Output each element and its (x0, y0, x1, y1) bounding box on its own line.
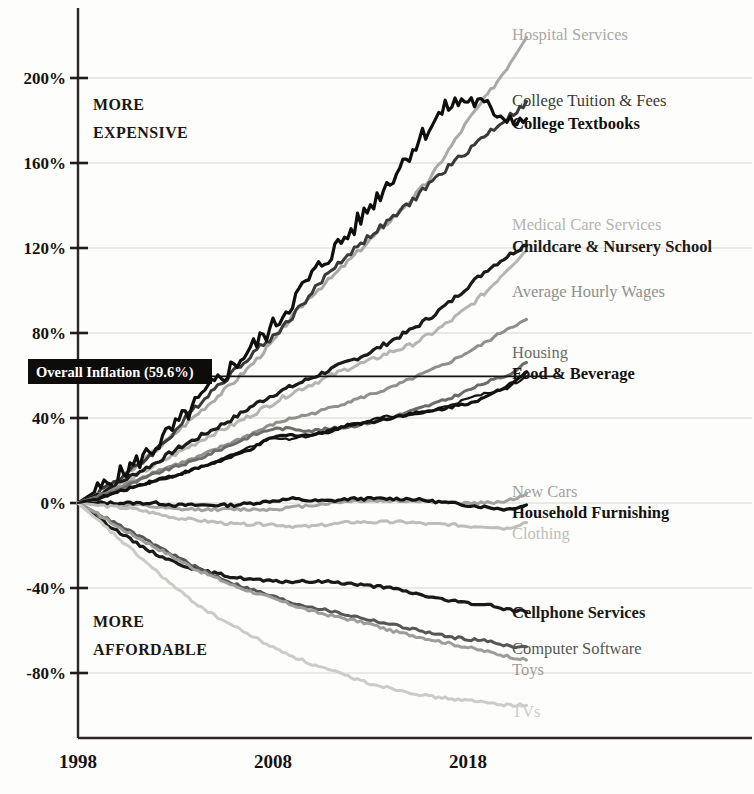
series-label: Cellphone Services (512, 603, 646, 622)
chart-canvas: 200%160%120%80%40%0%-40%-80% 19982008201… (0, 0, 754, 794)
overall-inflation-badge-text: Overall Inflation (59.6%) (36, 364, 194, 381)
series-label: Average Hourly Wages (512, 282, 665, 301)
series-label: College Textbooks (512, 114, 640, 133)
series-label: College Tuition & Fees (512, 91, 666, 110)
series-label: Food & Beverage (512, 364, 635, 383)
series-label: Clothing (512, 524, 570, 543)
overall-inflation-badge: Overall Inflation (59.6%) (28, 359, 212, 384)
x-tick-label: 1998 (59, 751, 97, 772)
x-tick-label: 2008 (254, 751, 292, 772)
x-tick-label: 2018 (449, 751, 487, 772)
more-affordable-label-line2: AFFORDABLE (93, 641, 207, 658)
series-label: TVs (512, 702, 540, 721)
y-tick-label: 40% (32, 409, 66, 428)
y-tick-label: -80% (26, 664, 66, 683)
series-label: Housing (512, 343, 568, 362)
series-label: Medical Care Services (512, 215, 661, 234)
series-label: Computer Software (512, 639, 642, 658)
series-label: Childcare & Nursery School (512, 237, 712, 256)
more-affordable-label-line1: MORE (93, 613, 144, 630)
chart-background (0, 0, 754, 794)
more-expensive-label-line1: MORE (93, 96, 144, 113)
price-change-chart: 200%160%120%80%40%0%-40%-80% 19982008201… (0, 0, 754, 794)
y-tick-label: 80% (32, 324, 66, 343)
y-tick-label: 120% (24, 239, 67, 258)
y-tick-label: -40% (26, 579, 66, 598)
y-tick-label: 200% (24, 69, 67, 88)
series-label: Hospital Services (512, 25, 628, 44)
series-label: Household Furnishing (512, 503, 670, 522)
series-label: Toys (512, 660, 544, 679)
y-tick-label: 160% (24, 154, 67, 173)
series-label: New Cars (512, 482, 578, 501)
y-tick-label: 0% (41, 494, 67, 513)
more-expensive-label-line2: EXPENSIVE (93, 124, 188, 141)
